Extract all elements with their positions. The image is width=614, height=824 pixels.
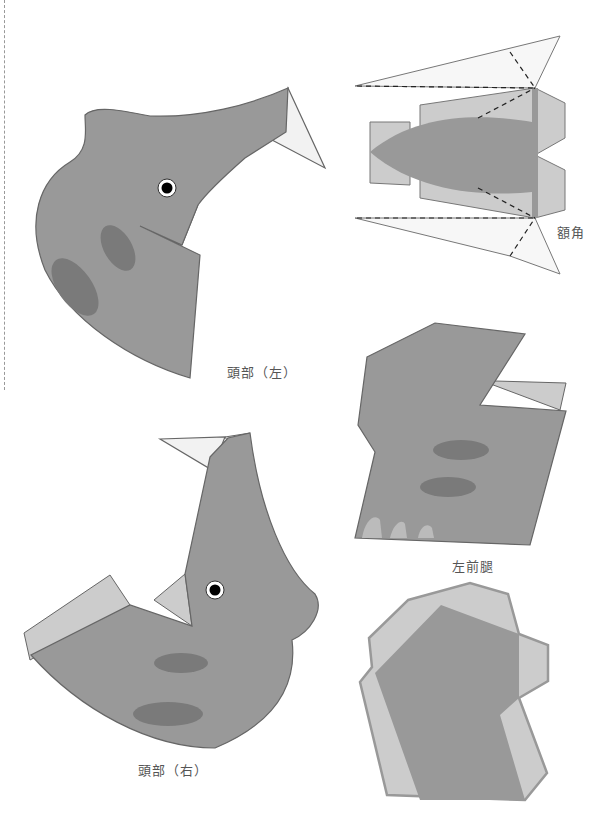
papercraft-parts (0, 0, 614, 824)
frill-horn-part (355, 36, 565, 274)
left-front-leg-label: 左前腿 (452, 556, 494, 575)
head-right-part (24, 433, 318, 748)
head-left-part (36, 88, 325, 378)
frill-horn-label: 額角 (557, 222, 585, 241)
left-front-leg-part (355, 323, 566, 545)
head-right-label: 頭部（右） (138, 760, 208, 779)
head-left-label: 頭部（左） (227, 362, 297, 381)
body-part (360, 583, 548, 800)
